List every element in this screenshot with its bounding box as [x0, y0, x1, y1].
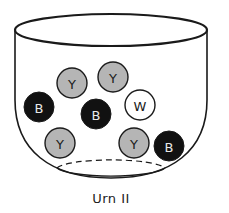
ball-yellow: Y [57, 68, 87, 98]
ball-yellow: Y [98, 62, 128, 92]
ball-group: YYBBWYYB [24, 62, 184, 161]
ball-black: B [24, 92, 54, 122]
urn-rim [15, 14, 207, 46]
ball-white: W [125, 90, 155, 120]
ball-label: Y [108, 71, 117, 86]
ball-label: Y [67, 77, 76, 92]
ball-yellow: Y [119, 128, 149, 158]
ball-label: B [165, 140, 174, 155]
ball-label: B [92, 108, 101, 123]
ball-label: B [35, 101, 44, 116]
urn-base-hidden-edge [57, 160, 165, 168]
ball-yellow: Y [45, 128, 75, 158]
ball-black: B [154, 131, 184, 161]
urn-base-front-edge [57, 168, 165, 176]
ball-label: W [134, 99, 147, 114]
ball-label: Y [55, 137, 64, 152]
ball-label: Y [129, 137, 138, 152]
urn-diagram: YYBBWYYB [0, 0, 229, 213]
ball-black: B [81, 99, 111, 129]
urn-caption: Urn II [0, 191, 222, 206]
